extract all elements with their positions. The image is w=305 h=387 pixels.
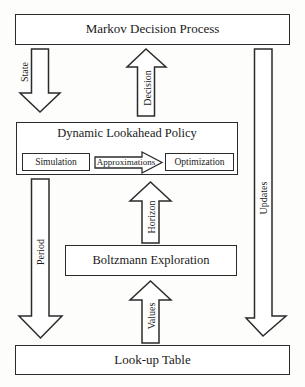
node-look-up-table-label: Look-up Table	[114, 353, 190, 367]
arrow-updates	[245, 48, 293, 338]
node-simulation-label: Simulation	[35, 157, 77, 167]
node-optimization: Optimization	[165, 153, 234, 171]
arrow-decision-label: Decision	[142, 70, 153, 106]
policy-inner-row: Simulation Approximations Optimization	[17, 150, 239, 174]
node-markov-decision-process-label: Markov Decision Process	[86, 22, 220, 36]
arrow-updates-label: Updates	[258, 182, 269, 215]
arrow-state-label: State	[19, 62, 30, 82]
node-dynamic-lookahead-policy-label: Dynamic Lookahead Policy	[57, 126, 197, 144]
node-simulation: Simulation	[22, 153, 90, 171]
arrow-period-label: Period	[35, 239, 46, 265]
node-look-up-table: Look-up Table	[15, 345, 290, 375]
node-boltzmann-exploration: Boltzmann Exploration	[65, 245, 237, 276]
diagram-canvas: Markov Decision Process State Decision U…	[0, 0, 305, 387]
node-markov-decision-process: Markov Decision Process	[15, 14, 290, 45]
node-optimization-label: Optimization	[174, 157, 224, 167]
arrow-horizon-label: Horizon	[146, 201, 157, 234]
node-dynamic-lookahead-policy: Dynamic Lookahead Policy Simulation Appr…	[16, 122, 238, 175]
arrow-approximations-label: Approximations	[96, 158, 156, 168]
arrow-values-label: Values	[146, 303, 157, 330]
node-boltzmann-exploration-label: Boltzmann Exploration	[93, 254, 210, 268]
